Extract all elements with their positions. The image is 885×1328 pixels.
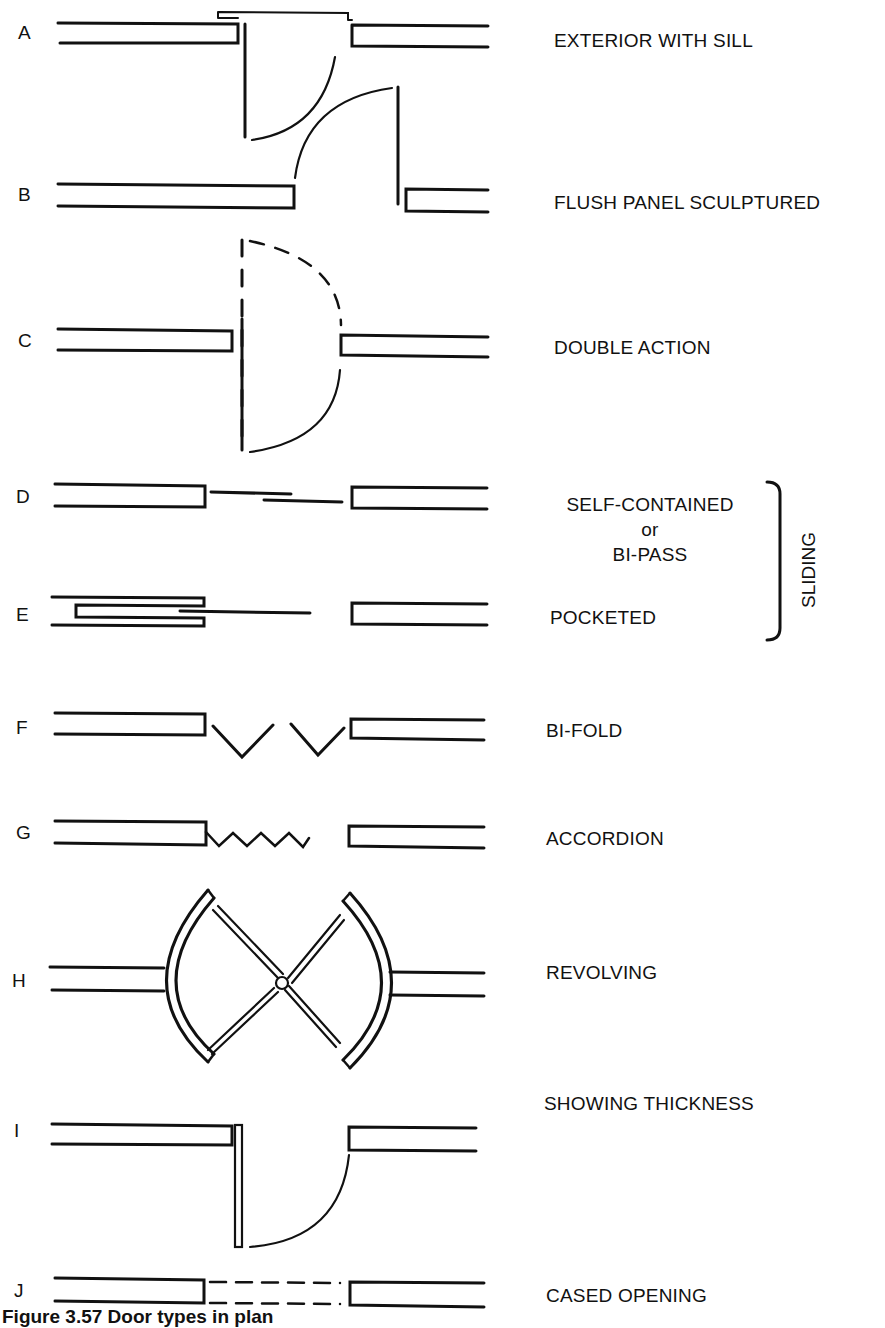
row-letter-j: J xyxy=(14,1280,24,1302)
row-letter-e: E xyxy=(16,604,29,626)
row-letter-b: B xyxy=(18,184,31,206)
label-cased-opening: CASED OPENING xyxy=(546,1285,707,1307)
label-bi-fold: BI-FOLD xyxy=(546,720,622,742)
row-letter-g: G xyxy=(16,822,31,844)
label-or: or xyxy=(540,519,760,541)
row-letter-i: I xyxy=(14,1120,19,1142)
row-letter-a: A xyxy=(18,22,31,44)
label-pocketed: POCKETED xyxy=(550,607,656,629)
door-symbol-j xyxy=(55,1278,484,1307)
label-bi-pass: BI-PASS xyxy=(540,544,760,566)
door-symbol-d xyxy=(55,484,487,509)
label-double-action: DOUBLE ACTION xyxy=(554,337,711,359)
figure-caption: Figure 3.57 Door types in plan xyxy=(2,1306,273,1328)
row-letter-h: H xyxy=(12,970,26,992)
row-letter-f: F xyxy=(16,717,28,739)
label-self-contained: SELF-CONTAINED xyxy=(540,494,760,516)
sliding-bracket xyxy=(767,482,780,640)
group-label-sliding: SLIDING xyxy=(798,532,820,608)
label-showing-thickness: SHOWING THICKNESS xyxy=(544,1093,754,1115)
label-exterior-with-sill: EXTERIOR WITH SILL xyxy=(554,30,753,52)
door-symbol-i xyxy=(52,1124,476,1247)
row-letter-d: D xyxy=(16,486,30,508)
label-accordion: ACCORDION xyxy=(546,828,664,850)
door-symbol-e xyxy=(52,597,487,626)
door-symbol-c xyxy=(58,240,488,452)
row-letter-c: C xyxy=(18,330,32,352)
door-symbol-a xyxy=(58,12,488,140)
door-symbol-b xyxy=(58,87,488,212)
door-symbol-f xyxy=(55,713,484,757)
door-symbol-g xyxy=(55,821,484,848)
label-revolving: REVOLVING xyxy=(546,962,657,984)
label-flush-panel-sculptured: FLUSH PANEL SCULPTURED xyxy=(554,192,820,214)
door-symbol-h xyxy=(50,890,484,1068)
